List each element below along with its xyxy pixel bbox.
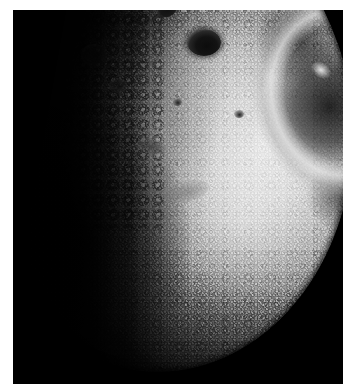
image-frame: Black-and-white spacecraft photograph of… xyxy=(0,0,351,384)
space-photograph: Black-and-white spacecraft photograph of… xyxy=(13,10,343,384)
